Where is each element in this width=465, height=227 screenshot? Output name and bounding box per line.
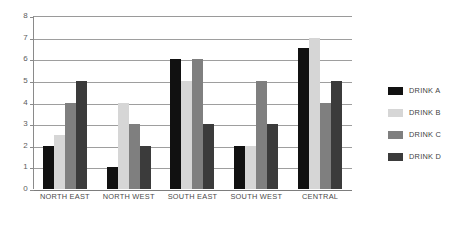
bar[interactable] — [192, 59, 203, 189]
y-axis-tick — [30, 190, 34, 191]
y-axis-tick-labels: 012345678 — [14, 16, 28, 189]
bar[interactable] — [256, 81, 267, 189]
x-axis-category-label: NORTH WEST — [97, 193, 161, 200]
legend-label: DRINK D — [409, 153, 441, 160]
bar[interactable] — [234, 146, 245, 189]
y-axis-tick-label: 1 — [23, 163, 28, 171]
legend-item[interactable]: DRINK B — [388, 102, 465, 124]
x-axis-category-label: SOUTH EAST — [161, 193, 225, 200]
bar-group — [288, 16, 352, 189]
bar[interactable] — [309, 38, 320, 189]
bar-group — [224, 16, 288, 189]
y-axis-tick-label: 3 — [23, 120, 28, 128]
x-axis-category-label: SOUTH WEST — [224, 193, 288, 200]
bar[interactable] — [118, 103, 129, 190]
x-axis-category-labels: NORTH EASTNORTH WESTSOUTH EASTSOUTH WEST… — [33, 193, 352, 200]
bar[interactable] — [54, 135, 65, 189]
x-axis-category-label: CENTRAL — [288, 193, 352, 200]
legend-item[interactable]: DRINK A — [388, 80, 465, 102]
bars-layer — [33, 16, 352, 189]
bar[interactable] — [267, 124, 278, 189]
y-axis-tick-label: 8 — [23, 12, 28, 20]
legend-swatch — [388, 87, 403, 95]
y-axis-tick-label: 5 — [23, 77, 28, 85]
bar[interactable] — [331, 81, 342, 189]
legend-swatch — [388, 131, 403, 139]
y-axis-tick-label: 6 — [23, 55, 28, 63]
bar[interactable] — [43, 146, 54, 189]
bar[interactable] — [320, 103, 331, 190]
plot-wrapper: 012345678 NORTH EASTNORTH WESTSOUTH EAST… — [0, 0, 370, 227]
bar[interactable] — [298, 48, 309, 189]
bar[interactable] — [107, 167, 118, 189]
legend-swatch — [388, 109, 403, 117]
legend-label: DRINK C — [409, 131, 441, 138]
chart-legend: DRINK ADRINK BDRINK CDRINK D — [388, 80, 465, 168]
bar-group — [33, 16, 97, 189]
bar[interactable] — [140, 146, 151, 189]
bar[interactable] — [65, 103, 76, 190]
bar[interactable] — [203, 124, 214, 189]
legend-item[interactable]: DRINK D — [388, 146, 465, 168]
bar[interactable] — [170, 59, 181, 189]
bar-group — [161, 16, 225, 189]
bar[interactable] — [129, 124, 140, 189]
bar[interactable] — [245, 146, 256, 189]
x-axis-category-label: NORTH EAST — [33, 193, 97, 200]
bar-group — [97, 16, 161, 189]
y-axis-tick-label: 4 — [23, 99, 28, 107]
legend-label: DRINK A — [409, 87, 440, 94]
y-axis-tick-label: 7 — [23, 34, 28, 42]
x-axis-baseline — [34, 190, 352, 191]
bar[interactable] — [181, 81, 192, 189]
legend-item[interactable]: DRINK C — [388, 124, 465, 146]
legend-label: DRINK B — [409, 109, 441, 116]
bar-chart: 012345678 NORTH EASTNORTH WESTSOUTH EAST… — [0, 0, 465, 227]
legend-swatch — [388, 153, 403, 161]
y-axis-tick-label: 2 — [23, 142, 28, 150]
y-axis-tick-label: 0 — [23, 185, 28, 193]
bar[interactable] — [76, 81, 87, 189]
